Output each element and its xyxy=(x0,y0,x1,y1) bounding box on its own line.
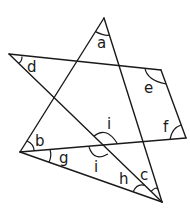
label-g: g xyxy=(59,149,69,167)
geometry-diagram: a d e f b g i i h c xyxy=(0,0,190,209)
angle-labels: a d e f b g i i h c xyxy=(27,34,169,188)
segment-a-b xyxy=(20,18,104,152)
label-i-bottom: i xyxy=(94,158,98,176)
arc-d xyxy=(19,57,23,64)
arc-b xyxy=(27,141,34,151)
label-d: d xyxy=(27,58,37,76)
arc-c xyxy=(151,188,158,191)
arc-f xyxy=(170,125,181,139)
arc-g xyxy=(49,150,51,163)
label-b: b xyxy=(35,132,45,150)
angle-arcs xyxy=(19,32,182,192)
arc-i-bottom xyxy=(89,147,108,157)
label-h: h xyxy=(119,170,129,188)
label-e: e xyxy=(144,79,153,97)
label-c: c xyxy=(140,166,148,184)
arc-h xyxy=(133,185,145,192)
arc-i-top xyxy=(94,132,117,143)
label-f: f xyxy=(163,118,169,136)
label-i-top: i xyxy=(107,115,111,133)
label-a: a xyxy=(97,34,106,52)
